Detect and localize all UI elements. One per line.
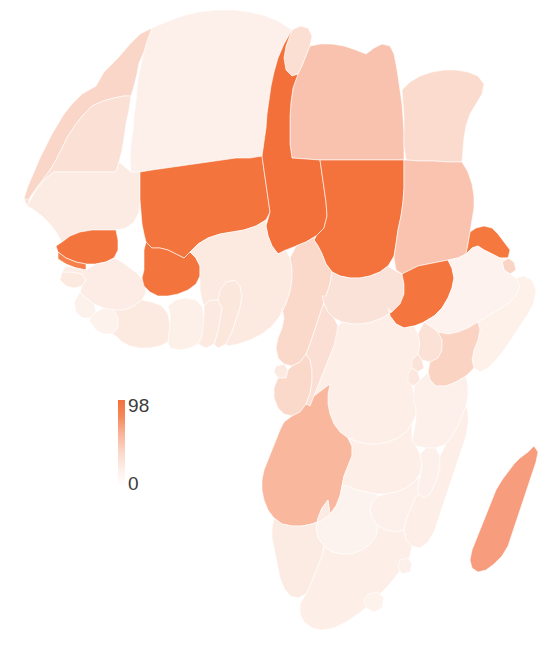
country-equatorial-guinea[interactable] [274,364,288,378]
legend-gradient-bar [118,400,125,486]
country-layer [24,10,538,630]
country-lesotho[interactable] [364,592,384,612]
legend-min-label: 0 [128,474,139,493]
color-scale-legend: 98 0 [114,396,174,498]
legend-max-label: 98 [128,396,150,415]
choropleth-map-figure: 98 0 [0,0,546,669]
country-madagascar[interactable] [470,446,538,572]
country-chad[interactable] [314,160,404,278]
country-egypt[interactable] [402,70,484,162]
country-eswatini[interactable] [398,558,412,574]
africa-map [0,0,546,669]
country-libya[interactable] [290,44,404,160]
